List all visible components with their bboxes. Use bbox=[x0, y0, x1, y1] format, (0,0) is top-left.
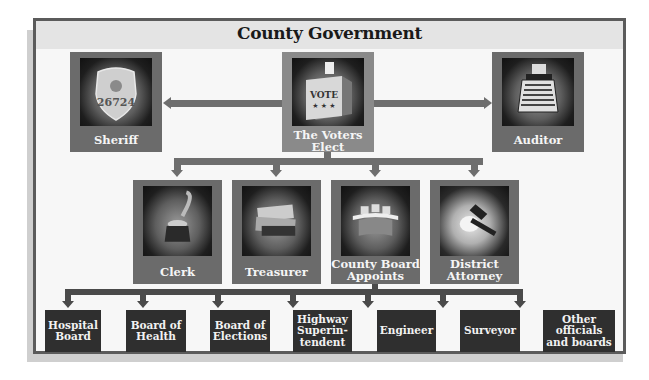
arrow-down-icon bbox=[62, 301, 74, 308]
diagram-title: County Government bbox=[36, 23, 623, 43]
money-icon bbox=[242, 186, 311, 256]
svg-text:★ ★ ★: ★ ★ ★ bbox=[312, 102, 335, 110]
svg-text:26724: 26724 bbox=[97, 96, 136, 109]
office-auditor: Auditor bbox=[492, 52, 584, 152]
arrow-down-icon bbox=[514, 301, 526, 308]
arrow-right-icon bbox=[484, 97, 492, 109]
office-label: Treasurer bbox=[232, 266, 321, 278]
office-label: County Board Appoints bbox=[331, 258, 420, 282]
connector-drop bbox=[517, 289, 523, 301]
inkwell-quill-icon bbox=[143, 186, 212, 256]
office-label: Clerk bbox=[133, 266, 222, 278]
ballot-box-icon: VOTE ★ ★ ★ bbox=[292, 58, 364, 126]
board-table-icon bbox=[341, 186, 410, 256]
voters-elect: VOTE ★ ★ ★ The Voters Elect bbox=[282, 52, 374, 152]
connector-voters-sheriff bbox=[170, 100, 282, 107]
appointed-highway-superintendent: Highway Superin-tendent bbox=[293, 310, 352, 352]
arrow-left-icon bbox=[163, 97, 171, 109]
connector-drop bbox=[215, 289, 221, 301]
office-sheriff: 26724 Sheriff bbox=[70, 52, 162, 152]
connector-drop bbox=[440, 289, 446, 301]
office-treasurer: Treasurer bbox=[232, 180, 321, 284]
connector-drop bbox=[365, 289, 371, 301]
title-bar: County Government bbox=[36, 21, 623, 49]
arrow-down-icon bbox=[369, 170, 381, 177]
connector-drop bbox=[372, 158, 379, 170]
arrow-down-icon bbox=[362, 301, 374, 308]
appointed-surveyor: Surveyor bbox=[460, 310, 520, 352]
connector-drop bbox=[65, 289, 71, 301]
appointed-other-officials: Other officials and boards bbox=[543, 310, 615, 352]
arrow-down-icon bbox=[171, 170, 183, 177]
office-label: Sheriff bbox=[70, 134, 162, 146]
appointed-hospital-board: Hospital Board bbox=[45, 310, 101, 352]
office-label: District Attorney bbox=[430, 258, 519, 282]
office-label: Auditor bbox=[492, 134, 584, 146]
appointed-board-of-elections: Board of Elections bbox=[210, 310, 270, 352]
connector-drop bbox=[273, 158, 280, 170]
svg-text:VOTE: VOTE bbox=[309, 90, 338, 100]
arrow-down-icon bbox=[137, 301, 149, 308]
connector-drop bbox=[174, 158, 181, 170]
connector-middle-bus bbox=[174, 158, 483, 165]
connector-drop bbox=[471, 158, 478, 170]
arrow-down-icon bbox=[437, 301, 449, 308]
arrow-down-icon bbox=[212, 301, 224, 308]
arrow-down-icon bbox=[468, 170, 480, 177]
badge-icon: 26724 bbox=[80, 58, 152, 126]
voters-label: The Voters Elect bbox=[282, 129, 374, 153]
connector-voters-auditor bbox=[374, 100, 484, 107]
gavel-icon bbox=[440, 186, 509, 256]
county-board: County Board Appoints bbox=[331, 180, 420, 284]
calculator-icon bbox=[502, 58, 574, 126]
arrow-down-icon bbox=[287, 301, 299, 308]
appointed-board-of-health: Board of Health bbox=[126, 310, 186, 352]
connector-drop bbox=[140, 289, 146, 301]
office-district-attorney: District Attorney bbox=[430, 180, 519, 284]
appointed-engineer: Engineer bbox=[377, 310, 436, 352]
connector-drop bbox=[290, 289, 296, 301]
office-clerk: Clerk bbox=[133, 180, 222, 284]
arrow-down-icon bbox=[270, 170, 282, 177]
